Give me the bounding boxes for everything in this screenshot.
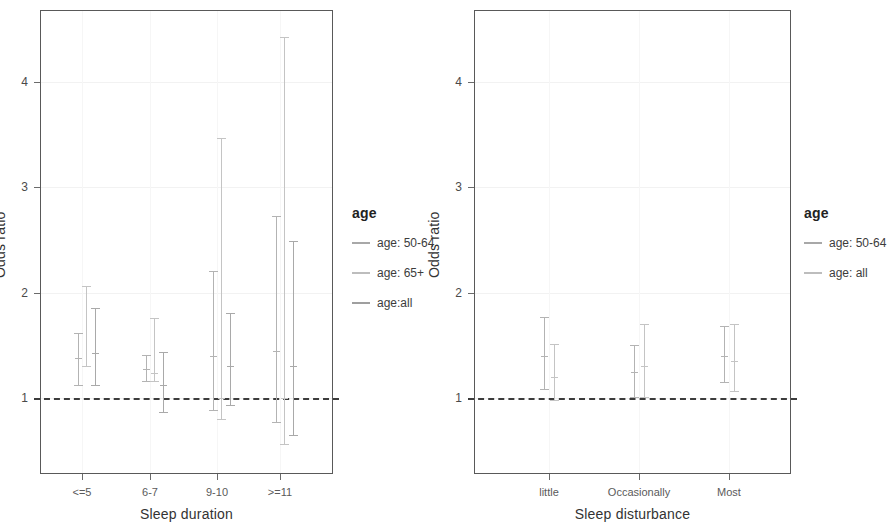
error-bar	[724, 326, 725, 383]
error-bar-cap-bottom	[272, 422, 281, 423]
error-bar-point-estimate	[631, 372, 638, 373]
error-bar-cap-bottom	[730, 391, 739, 392]
error-bar-cap-bottom	[74, 385, 83, 386]
error-bar-stem	[163, 352, 164, 413]
legend-swatch-3	[352, 302, 370, 304]
error-bar	[95, 308, 96, 386]
grid-line-vertical	[549, 11, 550, 473]
legend-item-label: age: all	[829, 266, 868, 280]
error-bar-stem	[544, 317, 545, 390]
error-bar-cap-bottom	[209, 410, 218, 411]
y-axis-tick-label: 3	[8, 181, 28, 193]
grid-line-horizontal	[41, 187, 332, 188]
x-axis-title-right: Sleep disturbance	[575, 506, 690, 522]
error-bar-stem	[95, 308, 96, 386]
y-axis-tick	[34, 293, 40, 294]
x-axis-tick	[217, 474, 218, 480]
error-bar-point-estimate	[281, 398, 288, 399]
error-bar-cap-bottom	[640, 397, 649, 398]
error-bar-point-estimate	[160, 385, 167, 386]
error-bar	[544, 317, 545, 390]
legend-title-right: age	[804, 205, 886, 221]
grid-line-vertical	[280, 11, 281, 473]
error-bar-point-estimate	[721, 356, 728, 357]
error-bar-cap-bottom	[289, 435, 298, 436]
error-bar-cap-bottom	[159, 412, 168, 413]
error-bar-point-estimate	[143, 369, 150, 370]
error-bar-point-estimate	[731, 361, 738, 362]
error-bar-point-estimate	[151, 373, 158, 374]
error-bar-stem	[213, 271, 214, 411]
grid-line-horizontal	[41, 82, 332, 83]
y-axis-title-right: Odds ratio	[426, 211, 442, 278]
x-axis-tick	[729, 474, 730, 480]
error-bar	[284, 37, 285, 446]
y-axis-tick-label: 3	[442, 181, 462, 193]
error-bar-stem	[293, 241, 294, 436]
error-bar-cap-top	[159, 352, 168, 353]
grid-line-vertical	[217, 11, 218, 473]
x-axis-tick	[280, 474, 281, 480]
error-bar	[293, 241, 294, 436]
legend-item[interactable]: age:all	[352, 292, 434, 314]
legend-item-label: age: 50-64	[829, 236, 886, 250]
x-axis-tick-label: Occasionally	[608, 486, 670, 498]
error-bar-cap-top	[82, 286, 91, 287]
error-bar-cap-bottom	[217, 419, 226, 420]
error-bar	[644, 324, 645, 398]
legend-item[interactable]: age: all	[804, 262, 886, 284]
error-bar	[634, 345, 635, 398]
error-bar-cap-top	[280, 37, 289, 38]
error-bar	[554, 344, 555, 401]
error-bar-stem	[230, 313, 231, 407]
y-axis-tick-label: 2	[442, 287, 462, 299]
error-bar-cap-bottom	[226, 405, 235, 406]
y-axis-title-left: Odds ratio	[0, 211, 8, 278]
legend-item[interactable]: age: 50-64	[804, 232, 886, 254]
y-axis-tick-label: 4	[8, 76, 28, 88]
y-axis-tick	[34, 187, 40, 188]
error-bar-cap-bottom	[280, 444, 289, 445]
plot-area-right	[474, 10, 791, 474]
x-axis-title-left: Sleep duration	[140, 506, 233, 522]
error-bar-point-estimate	[641, 366, 648, 367]
legend-swatch-2	[352, 272, 370, 274]
x-axis-tick-label: >=11	[268, 486, 292, 498]
error-bar-cap-top	[730, 324, 739, 325]
error-bar	[213, 271, 214, 411]
x-axis-tick	[150, 474, 151, 480]
error-bar	[230, 313, 231, 407]
y-axis-tick-label: 1	[442, 392, 462, 404]
x-axis-tick	[639, 474, 640, 480]
legend-item[interactable]: age: 65+	[352, 262, 434, 284]
error-bar-cap-top	[150, 318, 159, 319]
y-axis-tick-label: 2	[8, 287, 28, 299]
y-axis-tick	[468, 293, 474, 294]
error-bar	[78, 333, 79, 387]
legend-item[interactable]: age: 50-64	[352, 232, 434, 254]
x-axis-tick-label: little	[539, 486, 559, 498]
legend-left: age age: 50-64age: 65+age:all	[352, 205, 434, 322]
error-bar	[276, 216, 277, 423]
y-axis-tick	[34, 82, 40, 83]
error-bar-point-estimate	[541, 356, 548, 357]
grid-line-vertical	[150, 11, 151, 473]
error-bar-cap-top	[209, 271, 218, 272]
grid-line-horizontal	[475, 187, 790, 188]
error-bar-cap-top	[272, 216, 281, 217]
error-bar-stem	[644, 324, 645, 398]
grid-line-horizontal	[475, 82, 790, 83]
legend-item-label: age:all	[377, 296, 412, 310]
error-bar-cap-bottom	[550, 400, 559, 401]
error-bar-cap-top	[720, 326, 729, 327]
error-bar-point-estimate	[75, 358, 82, 359]
legend-item-label: age: 65+	[377, 266, 424, 280]
x-axis-tick-label: Most	[717, 486, 741, 498]
error-bar-cap-top	[289, 241, 298, 242]
x-axis-tick	[82, 474, 83, 480]
error-bar-point-estimate	[218, 398, 225, 399]
error-bar-cap-bottom	[540, 389, 549, 390]
error-bar-cap-top	[217, 138, 226, 139]
error-bar-cap-top	[142, 355, 151, 356]
error-bar-cap-bottom	[91, 385, 100, 386]
